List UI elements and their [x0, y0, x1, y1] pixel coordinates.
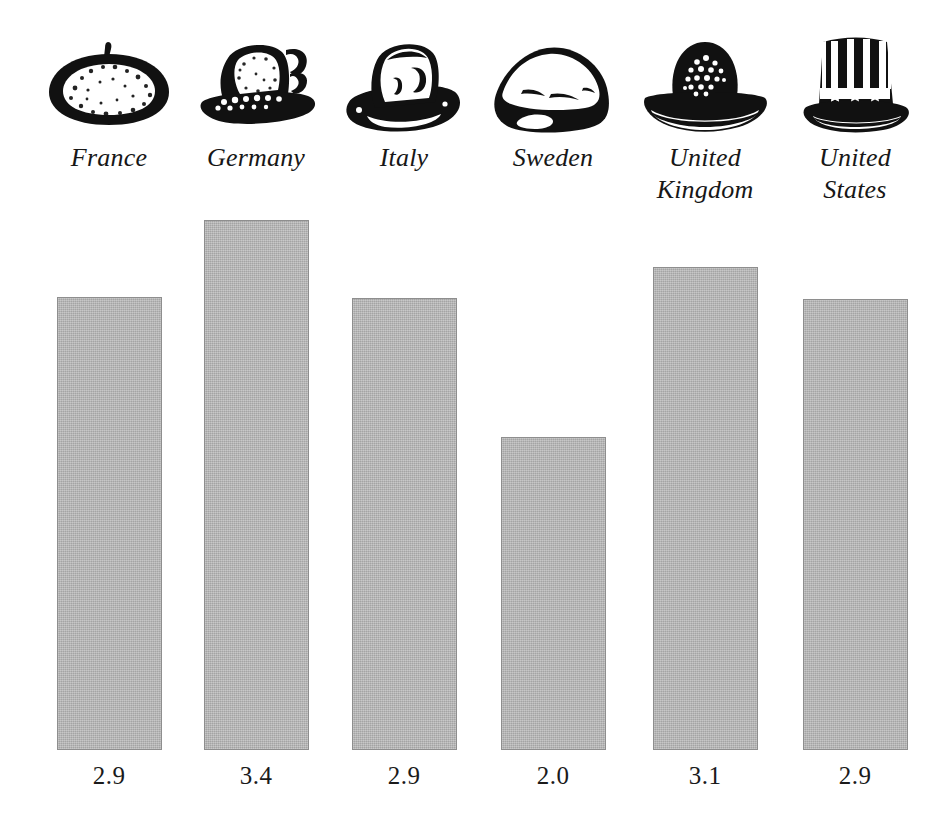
- chart-column-germany: Germany 3.4: [180, 0, 332, 837]
- bar-sweden: [501, 437, 606, 750]
- value-label-italy: 2.9: [328, 762, 480, 790]
- tyrolean-hat-icon: [180, 22, 332, 140]
- value-label-sweden: 2.0: [477, 762, 629, 790]
- bar-chart-figure: France 2.9: [0, 0, 947, 837]
- category-label-france: France: [33, 142, 185, 174]
- bar-france: [57, 297, 162, 750]
- bar-italy: [352, 298, 457, 750]
- category-label-sweden: Sweden: [477, 142, 629, 174]
- category-label-italy: Italy: [328, 142, 480, 174]
- value-label-united-kingdom: 3.1: [629, 762, 781, 790]
- beret-icon: [33, 22, 185, 140]
- category-label-united-states: United States: [779, 142, 931, 205]
- chart-column-sweden: Sweden 2.0: [477, 0, 629, 837]
- chart-column-united-states: United States 2.9: [779, 0, 931, 837]
- bowler-hat-icon: [629, 22, 781, 140]
- bar-united-kingdom: [653, 267, 758, 750]
- chart-column-italy: Italy 2.9: [328, 0, 480, 837]
- category-label-united-kingdom: United Kingdom: [629, 142, 781, 205]
- bar-united-states: [803, 299, 908, 750]
- value-label-united-states: 2.9: [779, 762, 931, 790]
- bar-germany: [204, 220, 309, 750]
- uncle-sam-top-hat-icon: [779, 22, 931, 140]
- fedora-icon: [328, 22, 480, 140]
- value-label-france: 2.9: [33, 762, 185, 790]
- chart-column-united-kingdom: United Kingdom 3.1: [629, 0, 781, 837]
- chart-column-france: France 2.9: [33, 0, 185, 837]
- category-label-germany: Germany: [180, 142, 332, 174]
- value-label-germany: 3.4: [180, 762, 332, 790]
- flat-cap-icon: [477, 22, 629, 140]
